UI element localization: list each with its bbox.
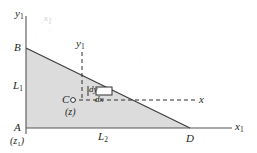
- point-C-label: C: [62, 94, 69, 105]
- vertex-A-label: A: [14, 122, 21, 133]
- side-L1-label: L1: [13, 80, 23, 91]
- x-axis-label: x1: [235, 121, 244, 132]
- point-C-coordinate: (z): [65, 107, 76, 117]
- dx-label: dx: [95, 95, 104, 104]
- diagram-canvas: [0, 0, 257, 153]
- vertex-D-label: D: [186, 133, 194, 144]
- vertex-B-label: B: [14, 42, 21, 53]
- scan-artifacts: [30, 11, 205, 60]
- scan-artifact-glyph: x1: [44, 13, 52, 26]
- dashed-horizontal-label: x: [199, 94, 204, 105]
- y-axis-label: y1: [15, 8, 24, 19]
- dashed-vertical-label: y1: [76, 38, 85, 49]
- geometry-figure: y1 x1 x1 B A (z1) D L1 L2 y1 x C (z) dy …: [0, 0, 257, 153]
- dy-label: dy: [89, 85, 98, 94]
- point-C-marker: [71, 98, 76, 103]
- vertex-A-coordinate: (z1): [10, 136, 24, 146]
- side-L2-label: L2: [98, 131, 108, 142]
